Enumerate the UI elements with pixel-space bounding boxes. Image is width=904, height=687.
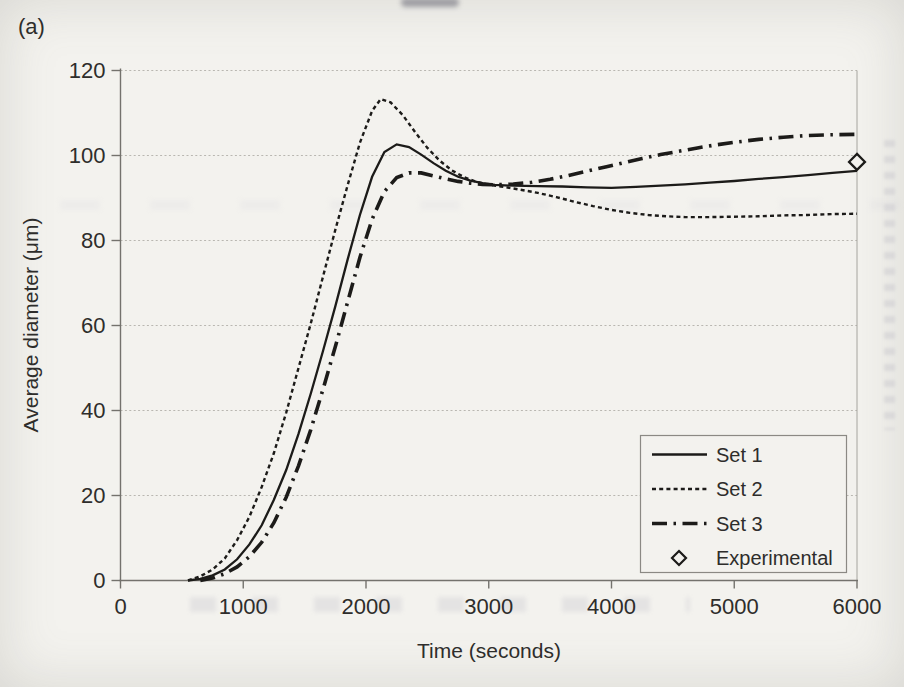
legend: Set 1Set 2Set 3Experimental — [641, 436, 847, 573]
x-tick-label-0: 0 — [114, 594, 126, 619]
x-axis-title: Time (seconds) — [417, 639, 561, 662]
line-chart: (a) 020406080100120010002000300040005000… — [0, 0, 904, 687]
experimental-marker — [849, 154, 865, 170]
x-tick-label-5000: 5000 — [710, 594, 759, 619]
panel-label: (a) — [18, 14, 45, 39]
x-tick-label-3000: 3000 — [464, 594, 513, 619]
y-axis-title: Average diameter (μm) — [19, 218, 42, 433]
x-tick-label-6000: 6000 — [833, 594, 882, 619]
y-tick-label-120: 120 — [69, 58, 106, 83]
legend-label-experimental: Experimental — [716, 547, 833, 569]
y-tick-label-40: 40 — [81, 398, 105, 423]
y-tick-label-80: 80 — [81, 228, 105, 253]
scanned-figure-page: (a) 020406080100120010002000300040005000… — [0, 0, 904, 687]
x-tick-label-1000: 1000 — [219, 594, 268, 619]
x-tick-label-4000: 4000 — [587, 594, 636, 619]
legend-label-set-1: Set 1 — [716, 444, 763, 466]
legend-label-set-2: Set 2 — [716, 478, 763, 500]
legend-label-set-3: Set 3 — [716, 513, 763, 535]
y-tick-label-0: 0 — [93, 568, 105, 593]
y-tick-label-60: 60 — [81, 313, 105, 338]
y-tick-label-100: 100 — [69, 143, 106, 168]
x-tick-label-2000: 2000 — [342, 594, 391, 619]
y-tick-label-20: 20 — [81, 483, 105, 508]
